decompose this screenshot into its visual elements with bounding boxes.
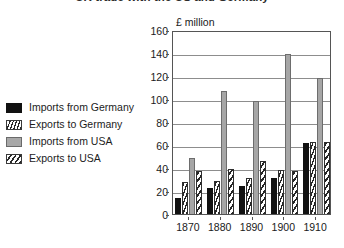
bar <box>228 169 234 214</box>
y-axis-tick-mark <box>166 31 169 32</box>
bar <box>292 171 298 214</box>
bar-group <box>173 32 205 214</box>
bar <box>189 158 195 214</box>
y-axis-tick-mark <box>166 169 169 170</box>
x-axis-tick-mark <box>188 217 189 220</box>
x-axis-tick-mark <box>283 217 284 220</box>
x-axis-tick-label: 1870 <box>176 221 199 233</box>
y-axis-tick-mark <box>166 146 169 147</box>
bar <box>175 198 181 214</box>
bar-group <box>237 32 269 214</box>
y-axis-tick-mark <box>166 54 169 55</box>
y-axis-tick-mark <box>166 123 169 124</box>
bar <box>214 181 220 214</box>
bar <box>196 171 202 214</box>
bar <box>253 101 259 214</box>
chart-plot-area <box>172 31 331 215</box>
y-axis-tick-mark <box>166 215 169 216</box>
y-axis-tick-mark <box>166 77 169 78</box>
bar <box>285 54 291 214</box>
bar <box>324 142 330 214</box>
bar <box>303 143 309 214</box>
bar <box>271 178 277 214</box>
bar <box>310 142 316 214</box>
bar <box>221 91 227 214</box>
x-axis-tick-mark <box>220 217 221 220</box>
x-axis-tick-mark <box>252 217 253 220</box>
x-axis-tick-label: 1890 <box>240 221 263 233</box>
bar-group <box>300 32 332 214</box>
bar-group <box>268 32 300 214</box>
y-axis-tick-labels: 020406080100120140160 <box>138 0 168 248</box>
bar <box>246 178 252 214</box>
x-axis-tick-labels: 18701880189019001910 <box>172 217 331 237</box>
y-axis-tick-mark <box>166 100 169 101</box>
chart-bars <box>173 32 330 214</box>
y-axis-unit-label: £ million <box>176 16 215 28</box>
y-axis-tick-mark <box>166 192 169 193</box>
chart-plot-wrapper: £ million 020406080100120140160 18701880… <box>0 0 344 248</box>
bar <box>317 78 323 214</box>
x-axis-tick-label: 1910 <box>303 221 326 233</box>
x-axis-tick-mark <box>315 217 316 220</box>
bar <box>278 170 284 214</box>
bar <box>260 161 266 214</box>
bar <box>239 186 245 214</box>
bar <box>182 182 188 214</box>
x-axis-tick-label: 1900 <box>272 221 295 233</box>
bar <box>207 188 213 214</box>
x-axis-tick-label: 1880 <box>208 221 231 233</box>
bar-group <box>205 32 237 214</box>
